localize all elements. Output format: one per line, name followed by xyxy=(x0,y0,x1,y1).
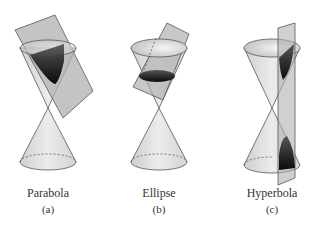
ellipse-label: (b) xyxy=(119,203,199,215)
upper-rim xyxy=(131,39,187,57)
parabola-label: (a) xyxy=(8,203,88,215)
parabola-caption: Parabola xyxy=(8,186,88,201)
hyperbola-label: (c) xyxy=(232,203,312,215)
ellipse-section xyxy=(139,70,175,82)
lower-cone xyxy=(131,108,187,170)
ellipse-caption: Ellipse xyxy=(119,186,199,201)
hyperbola-caption: Hyperbola xyxy=(232,186,312,201)
lower-cone xyxy=(20,108,76,170)
parabola-figure xyxy=(15,15,93,170)
ellipse-figure xyxy=(131,23,189,170)
hyperbola-figure xyxy=(244,23,300,185)
